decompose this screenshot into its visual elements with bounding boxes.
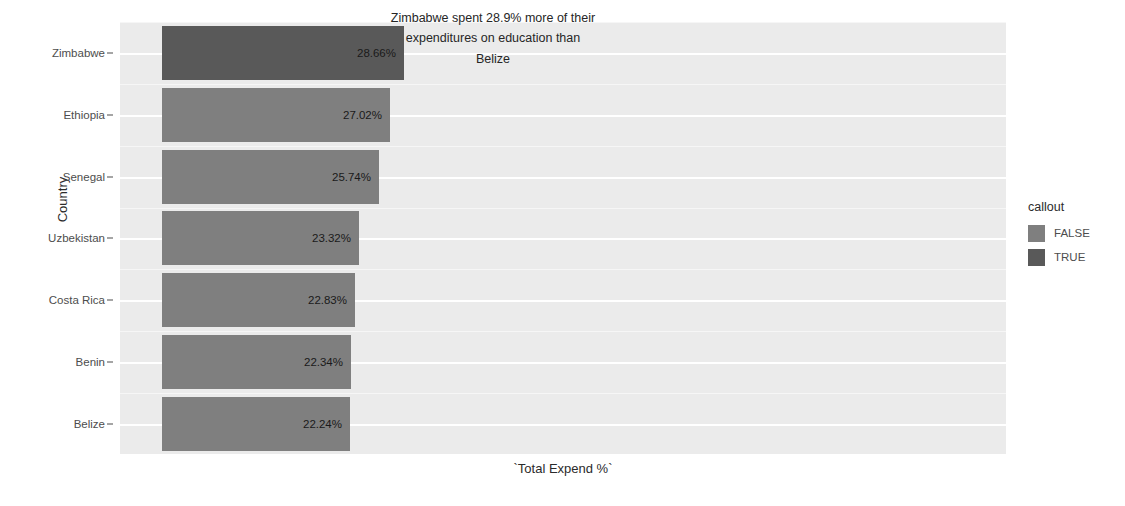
bar-value-label: 22.24% xyxy=(303,418,342,430)
legend-item[interactable]: FALSE xyxy=(1028,222,1123,244)
gridline-minor-horizontal xyxy=(120,331,1006,332)
bar: 23.32% xyxy=(162,211,359,265)
y-axis-tick-label: Belize xyxy=(74,418,105,430)
callout-annotation-line-2: expenditures on education than xyxy=(348,28,638,48)
bar: 27.02% xyxy=(162,88,390,142)
y-axis-tick-label: Ethiopia xyxy=(63,109,105,121)
y-axis-tick-mark xyxy=(107,177,113,178)
legend-entries: FALSETRUE xyxy=(1028,222,1123,268)
callout-annotation-line-1: Zimbabwe spent 28.9% more of their xyxy=(348,8,638,28)
bar-chart: Country ZimbabweEthiopiaSenegalUzbekista… xyxy=(0,0,1125,506)
gridline-minor-horizontal xyxy=(120,84,1006,85)
bar-value-label: 25.74% xyxy=(332,171,371,183)
callout-annotation: Zimbabwe spent 28.9% more of their expen… xyxy=(348,8,638,69)
y-axis-tick-mark xyxy=(107,300,113,301)
gridline-minor-horizontal xyxy=(120,146,1006,147)
gridline-minor-horizontal xyxy=(120,208,1006,209)
bar-value-label: 23.32% xyxy=(312,232,351,244)
callout-annotation-line-3: Belize xyxy=(348,49,638,69)
legend-swatch xyxy=(1028,249,1045,266)
legend-swatch xyxy=(1028,225,1045,242)
gridline xyxy=(120,454,1006,455)
bar: 22.83% xyxy=(162,273,355,327)
gridline-minor-horizontal xyxy=(120,393,1006,394)
y-axis-tick-mark xyxy=(107,53,113,54)
bar-value-label: 22.83% xyxy=(308,294,347,306)
y-axis-tick-label: Costa Rica xyxy=(49,294,105,306)
gridline-minor-horizontal xyxy=(120,269,1006,270)
legend-item-label: FALSE xyxy=(1054,227,1090,239)
bar: 22.24% xyxy=(162,397,350,451)
bar-value-label: 22.34% xyxy=(304,356,343,368)
bar: 25.74% xyxy=(162,150,379,204)
legend-title: callout xyxy=(1028,200,1123,214)
y-axis-tick-mark xyxy=(107,115,113,116)
y-axis-tick-mark xyxy=(107,362,113,363)
y-axis-tick-mark xyxy=(107,424,113,425)
legend-item-label: TRUE xyxy=(1054,251,1085,263)
bar-value-label: 27.02% xyxy=(343,109,382,121)
y-axis-tick-label: Uzbekistan xyxy=(48,232,105,244)
y-axis-tick-mark xyxy=(107,238,113,239)
y-axis-tick-label: Benin xyxy=(76,356,105,368)
y-axis-tick-label: Senegal xyxy=(63,171,105,183)
legend: callout FALSETRUE xyxy=(1028,200,1123,270)
legend-item[interactable]: TRUE xyxy=(1028,246,1123,268)
y-axis-tick-label: Zimbabwe xyxy=(52,47,105,59)
x-axis-title: `Total Expend %` xyxy=(120,461,1006,476)
y-axis-tick-labels: ZimbabweEthiopiaSenegalUzbekistanCosta R… xyxy=(0,22,113,455)
bar: 22.34% xyxy=(162,335,351,389)
plot-panel: 28.66%27.02%25.74%23.32%22.83%22.34%22.2… xyxy=(120,22,1006,455)
